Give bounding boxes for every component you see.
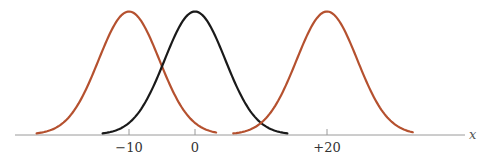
gaussian-center-curve bbox=[103, 12, 288, 134]
x-tick-label: −10 bbox=[115, 140, 142, 155]
chart: −100+20 x bbox=[0, 0, 485, 159]
x-tick-label: +20 bbox=[313, 140, 340, 155]
gaussian-right-curve bbox=[233, 12, 413, 134]
x-axis-label: x bbox=[469, 127, 477, 142]
x-axis-ticks: −100+20 bbox=[115, 129, 340, 155]
x-tick-label: 0 bbox=[191, 140, 199, 155]
curves bbox=[37, 12, 413, 134]
gaussian-left-curve bbox=[37, 12, 217, 134]
